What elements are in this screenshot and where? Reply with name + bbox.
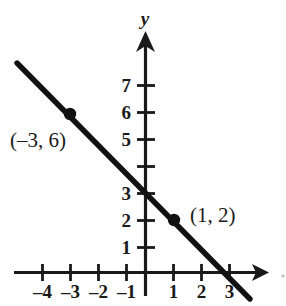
y-axis-label: y [139,8,150,29]
point-annotation-b: (1, 2) [190,203,236,227]
y-tick-label-1: 1 [122,237,132,258]
x-tick-label--3: –3 [60,281,80,302]
scan-artifact-speck [281,274,284,277]
x-tick-label-2: 2 [197,281,207,302]
x-tick-label--4: –4 [32,281,53,302]
graph-canvas: –4 –3 –2 –1 1 2 3 7 6 5 3 2 1 y (–3, 6) … [0,0,286,306]
x-tick-label-3: 3 [225,281,235,302]
point-annotation-a: (–3, 6) [10,128,66,152]
y-tick-label-7: 7 [122,75,132,96]
y-tick-label-6: 6 [122,102,132,123]
x-tick-label--2: –2 [88,281,108,302]
data-point-marker-a [64,108,76,120]
x-tick-label--1: –1 [116,281,136,302]
coordinate-graph-figure: –4 –3 –2 –1 1 2 3 7 6 5 3 2 1 y (–3, 6) … [0,0,286,306]
y-tick-label-2: 2 [122,210,132,231]
y-tick-label-3: 3 [122,183,132,204]
plotted-line [17,63,250,299]
y-tick-label-5: 5 [122,129,132,150]
data-point-marker-b [168,214,180,226]
x-tick-label-1: 1 [169,281,179,302]
